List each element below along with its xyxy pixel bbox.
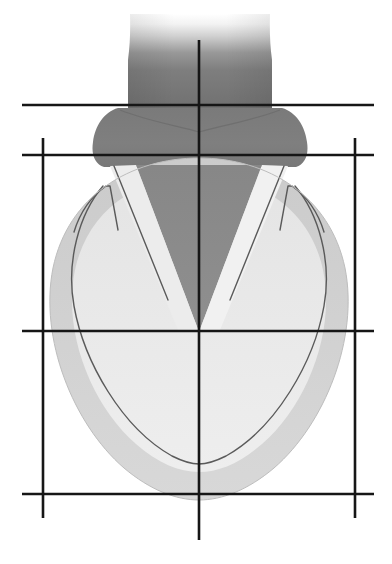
- figure-canvas: [0, 0, 392, 564]
- heart-cross-section-diagram: [0, 0, 392, 564]
